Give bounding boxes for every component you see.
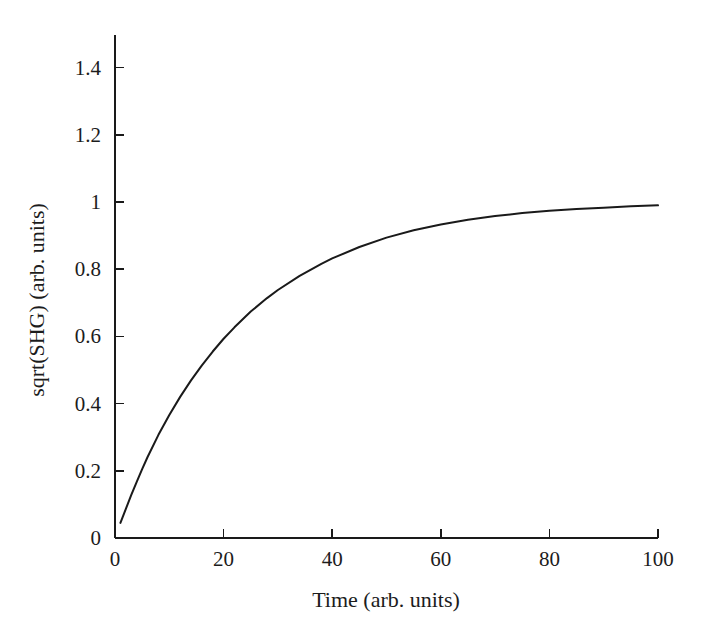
series-line-sqrt-shg bbox=[120, 205, 658, 523]
y-axis-title: sqrt(SHG) (arb. units) bbox=[24, 203, 49, 397]
x-tick-label: 40 bbox=[322, 547, 343, 571]
x-tick-label: 20 bbox=[213, 547, 234, 571]
tick-marks-group bbox=[115, 68, 658, 538]
y-tick-label: 1 bbox=[91, 190, 102, 214]
x-tick-label: 60 bbox=[430, 547, 451, 571]
axes-group bbox=[115, 35, 658, 538]
x-tick-labels: 020406080100 bbox=[110, 547, 674, 571]
y-tick-label: 0 bbox=[91, 526, 102, 550]
x-tick-label: 80 bbox=[539, 547, 560, 571]
line-chart: 020406080100 00.20.40.60.811.21.4 Time (… bbox=[0, 0, 709, 635]
y-tick-label: 0.8 bbox=[75, 257, 101, 281]
y-tick-label: 1.4 bbox=[75, 56, 102, 80]
y-tick-labels: 00.20.40.60.811.21.4 bbox=[75, 56, 102, 550]
data-series-curve bbox=[120, 205, 658, 523]
y-tick-label: 0.2 bbox=[75, 459, 101, 483]
x-tick-label: 0 bbox=[110, 547, 121, 571]
x-axis-title: Time (arb. units) bbox=[312, 587, 460, 612]
figure-panel: 020406080100 00.20.40.60.811.21.4 Time (… bbox=[0, 0, 709, 635]
y-tick-label: 0.4 bbox=[75, 392, 102, 416]
x-tick-label: 100 bbox=[642, 547, 674, 571]
y-tick-label: 0.6 bbox=[75, 324, 101, 348]
y-tick-label: 1.2 bbox=[75, 123, 101, 147]
